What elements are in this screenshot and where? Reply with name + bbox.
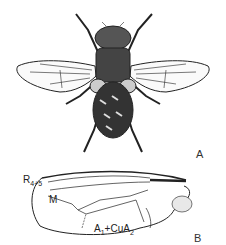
panel-b-label: B	[194, 232, 201, 244]
vein-cua-main: +CuA	[105, 223, 130, 234]
vein-label-a1-cua2: A1+CuA2	[94, 223, 134, 236]
panel-a-label: A	[196, 148, 203, 160]
vein-label-r45: R4+5	[23, 174, 42, 187]
fly-illustration	[0, 0, 226, 245]
figure: A B R4+5 M A1+CuA2	[0, 0, 226, 245]
fly-body	[17, 14, 209, 152]
vein-a-main: A	[94, 223, 101, 234]
vein-r-sub: 4+5	[30, 180, 42, 187]
vein-label-m: M	[49, 194, 57, 205]
vein-cua-sub: 2	[130, 229, 134, 236]
